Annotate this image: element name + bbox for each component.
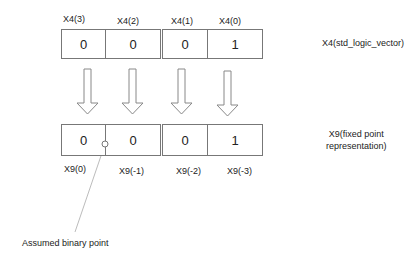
bottom-bit-label-neg1: X9(-1) xyxy=(119,166,144,176)
bottom-caption-line1: X9(fixed point xyxy=(326,128,387,140)
bottom-bit-cell-neg2: 0 xyxy=(162,124,208,156)
down-arrow-icon xyxy=(171,69,192,114)
binary-point-annotation: Assumed binary point xyxy=(22,238,109,248)
bottom-bit-cell-neg3: 1 xyxy=(207,124,263,156)
bottom-register: 0 0 0 1 xyxy=(61,124,263,156)
bottom-bit-label-0: X9(0) xyxy=(64,164,86,174)
bottom-bit-cell-neg1: 0 xyxy=(105,124,161,156)
bottom-bit-cell-0: 0 xyxy=(61,124,106,156)
down-arrow-icon xyxy=(77,69,98,114)
bottom-caption-line2: representation) xyxy=(326,140,387,152)
down-arrow-icon xyxy=(122,69,143,114)
bottom-bit-label-neg2: X9(-2) xyxy=(176,166,201,176)
bottom-caption: X9(fixed point representation) xyxy=(326,128,387,152)
down-arrow-icon xyxy=(217,71,238,116)
bottom-bit-label-neg3: X9(-3) xyxy=(227,166,252,176)
